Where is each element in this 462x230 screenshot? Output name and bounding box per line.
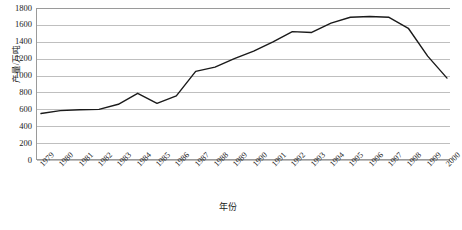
- y-tick-label: 1800: [15, 4, 32, 13]
- figure-caption: [0, 222, 456, 230]
- y-tick-label: 200: [19, 139, 32, 148]
- y-tick-label: 1600: [15, 20, 32, 29]
- series-layer: [37, 8, 451, 160]
- x-axis-tick-labels: 1979198019811982198319841985198619871988…: [36, 160, 450, 202]
- y-axis-tick-labels: 020040060080010001200140016001800: [0, 0, 34, 168]
- plot-area: [36, 8, 450, 160]
- x-axis-title: 年份: [0, 200, 456, 213]
- y-tick-label: 1000: [15, 71, 32, 80]
- y-tick-label: 1200: [15, 54, 32, 63]
- y-tick-label: 600: [19, 105, 32, 114]
- y-tick-label: 800: [19, 88, 32, 97]
- plot-right-edge: [449, 8, 450, 159]
- data-series-line: [41, 16, 447, 113]
- y-tick-label: 0: [28, 156, 32, 165]
- y-tick-label: 400: [19, 122, 32, 131]
- y-tick-label: 1400: [15, 37, 32, 46]
